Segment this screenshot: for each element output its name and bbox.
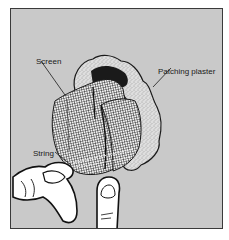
repair-illustration: [11, 9, 223, 229]
label-string: String: [33, 150, 54, 158]
label-screen: Screen: [36, 58, 61, 66]
illustration-frame: Screen Patching plaster String: [10, 8, 223, 229]
label-patching-plaster: Patching plaster: [158, 68, 215, 76]
